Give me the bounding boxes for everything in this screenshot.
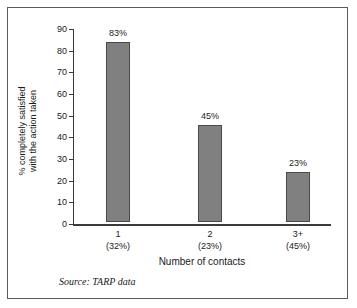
x-category-label: 1	[115, 229, 120, 239]
y-axis-line	[73, 29, 74, 225]
plot-area: 0102030405060708090 83%45%23% 1(32%)2(23…	[73, 29, 331, 224]
y-tick-label: 0	[62, 220, 67, 229]
y-tick-mark	[69, 202, 73, 203]
bar-1[interactable]: 83%	[106, 42, 130, 222]
x-axis-title: Number of contacts	[73, 256, 331, 267]
y-tick-label: 70	[57, 68, 67, 77]
y-tick-label: 80	[57, 46, 67, 55]
source-note: Source: TARP data	[59, 276, 135, 287]
figure-frame: % completely satisfied with the action t…	[7, 7, 348, 299]
y-tick-mark	[69, 94, 73, 95]
y-tick-mark	[69, 137, 73, 138]
y-tick-label: 10	[57, 198, 67, 207]
bar-slot-3+: 23%	[286, 29, 310, 222]
x-category-1: 1(32%)	[106, 228, 130, 252]
y-tick-label: 90	[57, 25, 67, 34]
bar-value-label: 83%	[109, 29, 127, 38]
x-category-sublabel: (45%)	[286, 240, 310, 252]
y-tick-label: 30	[57, 155, 67, 164]
y-tick-label: 50	[57, 111, 67, 120]
x-axis-line	[73, 224, 331, 226]
bar-slot-2: 45%	[198, 29, 222, 222]
x-category-sublabel: (32%)	[106, 240, 130, 252]
y-tick-mark	[69, 72, 73, 73]
bar-slot-1: 83%	[106, 29, 130, 222]
x-category-2: 2(23%)	[198, 228, 222, 252]
bar-3+[interactable]: 23%	[286, 172, 310, 222]
y-tick-mark	[69, 224, 73, 225]
bar-2[interactable]: 45%	[198, 125, 222, 223]
x-category-sublabel: (23%)	[198, 240, 222, 252]
y-tick-mark	[69, 51, 73, 52]
y-tick-label: 60	[57, 90, 67, 99]
x-category-label: 2	[207, 229, 212, 239]
y-tick-mark	[69, 159, 73, 160]
y-tick-mark	[69, 29, 73, 30]
y-axis-title: % completely satisfied with the action t…	[21, 56, 35, 206]
y-tick-label: 20	[57, 176, 67, 185]
x-category-3+: 3+(45%)	[286, 228, 310, 252]
bar-value-label: 45%	[201, 112, 219, 121]
y-tick-label: 40	[57, 133, 67, 142]
y-axis-title-line-2: with the action taken	[28, 86, 39, 175]
x-category-label: 3+	[293, 229, 303, 239]
bar-value-label: 23%	[289, 159, 307, 168]
y-tick-mark	[69, 116, 73, 117]
y-tick-mark	[69, 181, 73, 182]
y-axis-title-line-1: % completely satisfied	[17, 86, 28, 175]
